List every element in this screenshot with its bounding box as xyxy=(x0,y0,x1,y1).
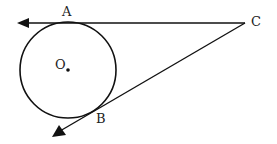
tangent-line-cb xyxy=(60,23,245,131)
arrowhead-lower-left-icon xyxy=(52,125,66,137)
label-a: A xyxy=(62,5,71,18)
label-c: C xyxy=(251,15,261,28)
center-point-o xyxy=(66,68,70,72)
arrowhead-left-icon xyxy=(17,18,29,28)
tangent-diagram: A C O B xyxy=(0,0,277,144)
label-o: O xyxy=(55,58,66,71)
diagram-canvas xyxy=(0,0,277,144)
label-b: B xyxy=(96,112,106,125)
